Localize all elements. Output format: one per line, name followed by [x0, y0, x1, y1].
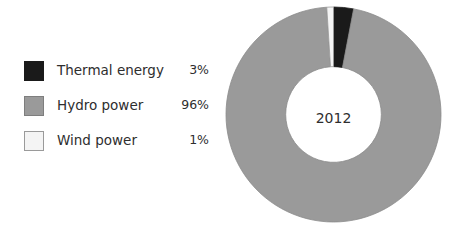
legend-item-thermal-energy[interactable]: Thermal energy 3%	[24, 53, 209, 88]
legend-item-hydro-power[interactable]: Hydro power 96%	[24, 88, 209, 123]
legend-value-hydro-power: 96%	[181, 99, 209, 112]
chart-legend: Thermal energy 3% Hydro power 96% Wind p…	[24, 53, 209, 158]
legend-value-wind-power: 1%	[183, 134, 209, 147]
donut-center-year-label: 2012	[316, 110, 352, 126]
legend-value-thermal-energy: 3%	[183, 64, 209, 77]
legend-label-thermal-energy: Thermal energy	[57, 64, 183, 78]
legend-swatch-thermal-energy	[24, 61, 44, 81]
legend-swatch-hydro-power	[24, 96, 44, 116]
donut-svg: 2012	[225, 6, 442, 223]
legend-label-hydro-power: Hydro power	[57, 99, 181, 113]
donut-graphic: 2012	[225, 6, 442, 223]
legend-item-wind-power[interactable]: Wind power 1%	[24, 123, 209, 158]
donut-chart-figure: Thermal energy 3% Hydro power 96% Wind p…	[0, 0, 453, 234]
legend-swatch-wind-power	[24, 131, 44, 151]
legend-label-wind-power: Wind power	[57, 134, 183, 148]
